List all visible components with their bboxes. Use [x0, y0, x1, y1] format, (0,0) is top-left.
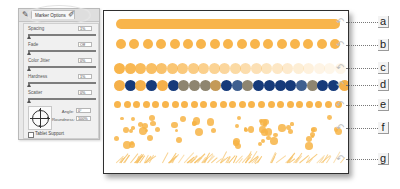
brush-dab: [288, 129, 293, 134]
callout-label-b: b: [378, 39, 389, 51]
brush-dab: [129, 142, 135, 148]
tab-marker-options-label: Marker Options: [35, 13, 66, 18]
pencil-icon[interactable]: ✐: [67, 10, 75, 19]
scatter-value-field[interactable]: 0%: [78, 90, 92, 95]
angle-roundness-widget[interactable]: [28, 106, 52, 130]
callout-label-a: a: [378, 16, 389, 28]
option-label: Spacing: [28, 26, 44, 32]
brush-dab: [176, 137, 182, 143]
leader-line: [346, 128, 378, 129]
curved-arrow-icon: ↶: [336, 63, 346, 73]
spacing-value-field[interactable]: 1%: [78, 26, 92, 31]
callout-label-e: e: [378, 99, 389, 111]
curved-arrow-icon: ↶: [336, 123, 346, 133]
brush-dab: [265, 128, 273, 136]
angle-label: Angle:: [60, 109, 74, 114]
stroke-f-scattered-dots: [104, 11, 348, 173]
brush-dab: [180, 116, 186, 122]
brush-dab: [195, 128, 203, 136]
drawing-canvas[interactable]: [103, 10, 349, 174]
tablet-support-checkbox[interactable]: [28, 132, 34, 138]
option-label: Color Jitter: [28, 58, 50, 64]
handle-dot-icon[interactable]: [39, 109, 41, 111]
brush-dab: [147, 135, 153, 141]
curved-arrow-icon: ↶: [336, 17, 346, 27]
leader-line: [346, 45, 378, 46]
curved-arrow-icon: ↶: [336, 154, 346, 164]
leader-line: [346, 159, 378, 160]
color-jitter-slider[interactable]: [28, 66, 96, 68]
brush-dab: [193, 117, 200, 124]
brush-dab: [155, 127, 161, 133]
color-jitter-value-field[interactable]: 0%: [78, 58, 92, 63]
fade-value-field[interactable]: Off: [78, 42, 92, 47]
brush-dab: [145, 129, 148, 132]
brush-dab: [120, 117, 123, 120]
hardness-slider[interactable]: [28, 82, 96, 84]
callout-label-c: c: [378, 62, 389, 74]
curved-arrow-icon: ↶: [336, 80, 346, 90]
brush-dab: [290, 122, 293, 125]
angle-arrow-icon[interactable]: [47, 117, 49, 119]
brush-dab: [162, 152, 168, 163]
brush-dab: [244, 128, 248, 132]
callout-e: ↶ e: [336, 100, 400, 110]
leader-line: [346, 85, 378, 86]
brush-dab: [237, 116, 242, 121]
callout-c: ↶ c: [336, 63, 400, 73]
callout-b: ↶ b: [336, 40, 400, 50]
curved-arrow-icon: ↶: [336, 100, 346, 110]
leader-line: [346, 22, 378, 23]
spacing-slider-thumb[interactable]: [27, 35, 31, 39]
brush-dab: [235, 143, 241, 149]
brush-dab: [114, 136, 119, 141]
brush-dab: [123, 127, 129, 133]
brush-dab: [150, 121, 156, 127]
fade-slider[interactable]: [28, 50, 96, 52]
brush-dab: [211, 128, 216, 133]
handle-dot-icon[interactable]: [39, 125, 41, 127]
scatter-slider[interactable]: [28, 98, 96, 100]
callout-a: ↶ a: [336, 17, 400, 27]
brush-dab: [311, 127, 316, 132]
fade-slider-thumb[interactable]: [27, 51, 31, 55]
callout-label-g: g: [378, 153, 389, 165]
callout-d: ↶ d: [336, 80, 400, 90]
option-fade: Fade Off: [26, 42, 96, 58]
option-hardness: Hardness 1%: [26, 74, 96, 90]
leader-line: [346, 68, 378, 69]
brush-dab: [327, 115, 332, 120]
callout-label-d: d: [378, 79, 389, 91]
brush-dab: [175, 129, 178, 132]
leader-line: [346, 105, 378, 106]
panel-tab-bar: ✎ Marker Options ✐: [19, 9, 99, 22]
scatter-slider-thumb[interactable]: [27, 99, 31, 103]
marker-options-panel: ✎ Marker Options ✐ Spacing 1% Fade Off C…: [18, 8, 100, 140]
brush-tool-icon[interactable]: ✎: [21, 10, 29, 19]
brush-dab: [131, 126, 135, 130]
brush-dab: [270, 137, 278, 145]
brush-dab: [235, 124, 239, 128]
stroke-g-textured-strokes: [116, 151, 344, 163]
brush-dab: [305, 142, 313, 150]
options-body: Spacing 1% Fade Off Color Jitter 0% Hard…: [23, 23, 99, 139]
curved-arrow-icon: ↶: [336, 40, 346, 50]
brush-dab: [131, 117, 135, 121]
brush-dab: [207, 118, 214, 125]
callout-label-f: f: [378, 122, 389, 134]
brush-dab: [260, 119, 266, 125]
color-jitter-slider-thumb[interactable]: [27, 67, 31, 71]
brush-dab: [171, 122, 178, 129]
brush-dab: [278, 124, 286, 132]
option-label: Scatter: [28, 90, 42, 96]
roundness-field[interactable]: 100%: [76, 116, 91, 121]
spacing-slider[interactable]: [28, 34, 96, 36]
option-color-jitter: Color Jitter 0%: [26, 58, 96, 74]
option-scatter: Scatter 0%: [26, 90, 96, 106]
callout-g: ↶ g: [336, 154, 400, 164]
brush-dab: [259, 126, 266, 133]
angle-field[interactable]: 0°: [76, 108, 91, 113]
option-label: Hardness: [28, 74, 47, 80]
hardness-slider-thumb[interactable]: [27, 83, 31, 87]
hardness-value-field[interactable]: 1%: [78, 74, 92, 79]
